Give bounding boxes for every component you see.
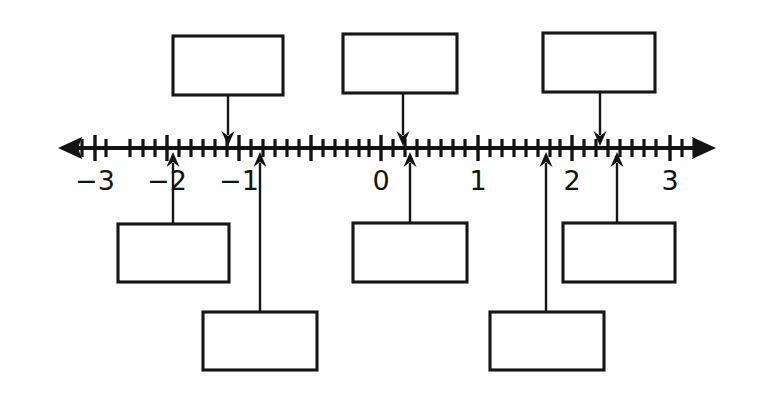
- mid-box-1[interactable]: [118, 224, 229, 282]
- axis-label-pos3: 3: [661, 165, 678, 196]
- axis-label-pos0: 0: [372, 165, 389, 196]
- mid-box-3[interactable]: [563, 223, 675, 282]
- bottom-box-2[interactable]: [490, 312, 604, 370]
- axis-labels: −3−2−10123: [75, 165, 679, 196]
- top-box-1[interactable]: [173, 36, 283, 95]
- axis-label-neg1: −1: [219, 165, 259, 196]
- number-line-figure: −3−2−10123: [0, 0, 759, 401]
- axis-label-neg2: −2: [147, 165, 187, 196]
- top-box-2[interactable]: [343, 34, 457, 93]
- worksheet-canvas: −3−2−10123: [0, 0, 759, 401]
- axis-label-neg3: −3: [75, 165, 115, 196]
- axis-label-pos2: 2: [563, 165, 580, 196]
- axis-label-pos1: 1: [469, 165, 486, 196]
- mid-box-2[interactable]: [353, 223, 467, 282]
- answer-boxes[interactable]: [118, 33, 675, 370]
- bottom-box-1[interactable]: [203, 312, 317, 370]
- top-box-3[interactable]: [543, 33, 655, 92]
